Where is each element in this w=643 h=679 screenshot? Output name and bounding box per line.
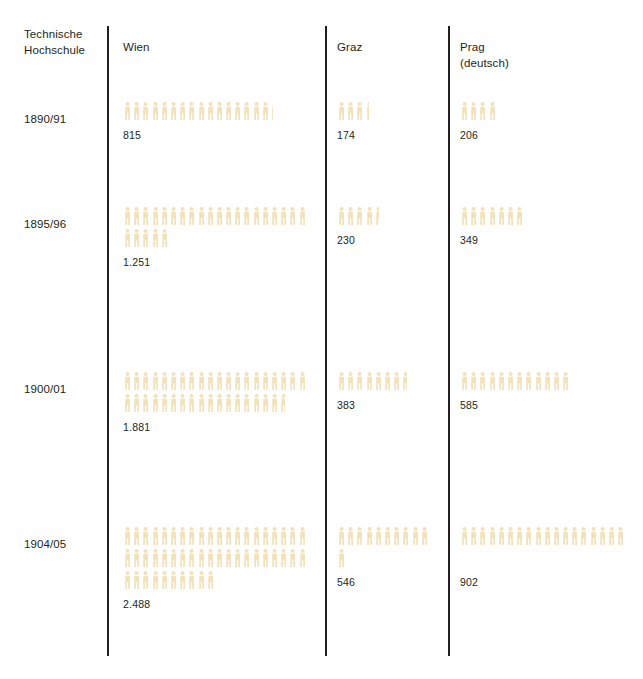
person-pictogram-icon [233,392,242,414]
person-pictogram-icon [488,100,497,122]
person-pictogram-icon [242,392,251,414]
cell-wien: 1.881 [123,370,319,434]
pictogram-group [460,370,626,392]
column-divider-1 [107,26,109,656]
person-pictogram-icon [411,525,420,547]
person-pictogram-icon [469,525,478,547]
value-label: 902 [460,575,638,589]
value-label: 815 [123,128,319,142]
person-pictogram-icon [169,525,178,547]
person-pictogram-icon [132,569,141,591]
pictogram-group [123,205,307,249]
person-pictogram-icon [132,547,141,569]
person-pictogram-icon [141,205,150,227]
person-pictogram-icon [123,547,132,569]
person-pictogram-icon [187,100,196,122]
person-pictogram-icon-partial [365,100,369,122]
person-pictogram-icon [270,370,279,392]
value-label: 1.881 [123,420,319,434]
person-pictogram-icon [579,525,588,547]
person-pictogram-icon [383,370,392,392]
column-header-graz: Graz [337,40,362,56]
person-pictogram-icon [337,205,346,227]
pictogram-group [123,525,307,591]
pictogram-group [460,100,626,122]
person-pictogram-icon [270,392,279,414]
person-pictogram-icon [178,205,187,227]
person-pictogram-icon-partial [401,370,407,392]
person-pictogram-icon [534,370,543,392]
person-pictogram-icon [242,205,251,227]
person-pictogram-icon [288,370,297,392]
person-pictogram-icon [178,569,187,591]
person-pictogram-icon [169,392,178,414]
person-pictogram-icon [460,525,469,547]
person-pictogram-icon [252,525,261,547]
person-pictogram-icon [365,370,374,392]
person-pictogram-icon [252,100,261,122]
person-pictogram-icon [478,525,487,547]
person-pictogram-icon [160,227,169,249]
person-pictogram-icon [420,525,429,547]
person-pictogram-icon [141,525,150,547]
person-pictogram-icon [252,205,261,227]
person-pictogram-icon [132,392,141,414]
person-pictogram-icon [506,205,515,227]
person-pictogram-icon [187,547,196,569]
person-pictogram-icon [123,227,132,249]
person-pictogram-icon [488,525,497,547]
person-pictogram-icon [616,525,625,547]
person-pictogram-icon [607,525,616,547]
person-pictogram-icon [233,205,242,227]
value-label: 546 [337,575,443,589]
row-label: 1904/05 [24,537,66,552]
person-pictogram-icon [365,205,374,227]
cell-prag: 902 [460,525,638,589]
person-pictogram-icon [506,525,515,547]
person-pictogram-icon [197,547,206,569]
person-pictogram-icon [123,205,132,227]
person-pictogram-icon [224,525,233,547]
person-pictogram-icon [337,370,346,392]
person-pictogram-icon [141,392,150,414]
person-pictogram-icon [224,100,233,122]
person-pictogram-icon [524,370,533,392]
person-pictogram-icon [160,392,169,414]
person-pictogram-icon [261,100,270,122]
person-pictogram-icon [206,205,215,227]
person-pictogram-icon [355,100,364,122]
person-pictogram-icon [169,205,178,227]
person-pictogram-icon [488,205,497,227]
person-pictogram-icon [151,525,160,547]
person-pictogram-icon [123,525,132,547]
person-pictogram-icon [346,205,355,227]
person-pictogram-icon [197,370,206,392]
person-pictogram-icon [123,569,132,591]
person-pictogram-icon [215,525,224,547]
cell-prag: 585 [460,370,638,412]
pictogram-group [337,370,429,392]
cell-prag: 206 [460,100,638,142]
person-pictogram-icon [187,370,196,392]
person-pictogram-icon [132,100,141,122]
person-pictogram-icon [141,100,150,122]
row-label: 1890/91 [24,112,66,127]
person-pictogram-icon [252,370,261,392]
person-pictogram-icon [279,205,288,227]
person-pictogram-icon [197,205,206,227]
column-header-wien: Wien [123,40,150,56]
person-pictogram-icon [460,370,469,392]
person-pictogram-icon [224,205,233,227]
pictogram-group [337,525,429,569]
person-pictogram-icon [215,205,224,227]
person-pictogram-icon [478,100,487,122]
person-pictogram-icon [160,547,169,569]
person-pictogram-icon [355,370,364,392]
person-pictogram-icon [478,205,487,227]
person-pictogram-icon [197,569,206,591]
person-pictogram-icon [298,205,307,227]
value-label: 2.488 [123,597,319,611]
person-pictogram-icon [215,100,224,122]
person-pictogram-icon [365,525,374,547]
person-pictogram-icon [298,547,307,569]
